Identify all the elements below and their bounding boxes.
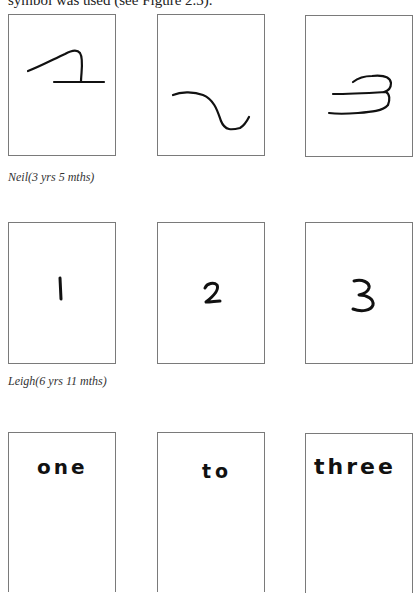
intro-paragraph: symbol was used (see Figure 2.3). — [8, 0, 213, 9]
card-row3-3: three — [305, 433, 413, 593]
scribble-three-loops-icon — [306, 16, 414, 158]
card-row2-2 — [157, 222, 265, 364]
numeral-three — [306, 223, 414, 365]
card-row1-2 — [157, 14, 265, 156]
word-to: to — [158, 433, 266, 593]
card-row1-1 — [8, 14, 116, 156]
svg-text:three: three — [314, 454, 396, 479]
card-row3-1: one — [8, 432, 116, 592]
card-row1-3 — [305, 15, 413, 157]
numeral-two — [158, 223, 266, 365]
card-row2-3 — [305, 222, 413, 364]
word-three: three — [306, 434, 414, 594]
scribble-hook-icon — [9, 15, 117, 157]
child-caption: Leigh(6 yrs 11 mths) — [8, 374, 107, 388]
word-one: one — [9, 433, 117, 593]
numeral-one — [9, 223, 117, 365]
svg-text:one: one — [37, 455, 88, 479]
card-row2-1 — [8, 222, 116, 364]
svg-text:to: to — [202, 460, 232, 482]
child-caption: Neil(3 yrs 5 mths) — [8, 170, 94, 184]
scribble-wave-icon — [158, 15, 266, 157]
card-row3-2: to — [157, 432, 265, 592]
